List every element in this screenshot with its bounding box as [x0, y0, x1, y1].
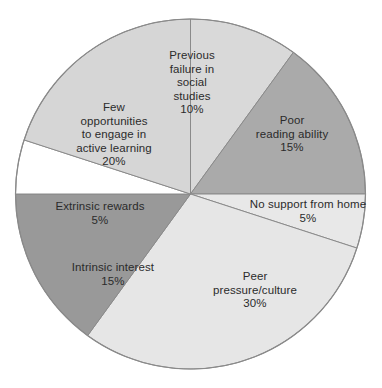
clipped-caption-strip	[0, 376, 382, 388]
pie-chart-svg	[0, 0, 382, 388]
pie-slices-group	[16, 19, 366, 369]
pie-chart: Previous failure in social studies 10% P…	[0, 0, 382, 388]
